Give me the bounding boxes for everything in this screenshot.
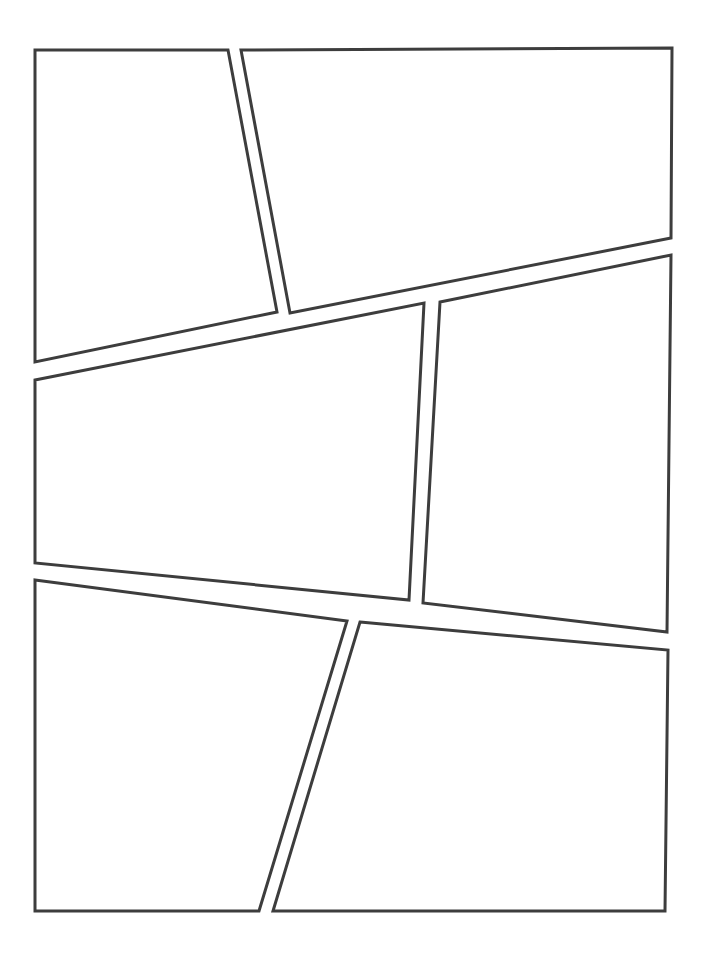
panel-group bbox=[35, 48, 672, 911]
comic-panel-4[interactable] bbox=[423, 255, 671, 632]
comic-page bbox=[0, 0, 707, 954]
comic-page-canvas bbox=[0, 0, 707, 954]
